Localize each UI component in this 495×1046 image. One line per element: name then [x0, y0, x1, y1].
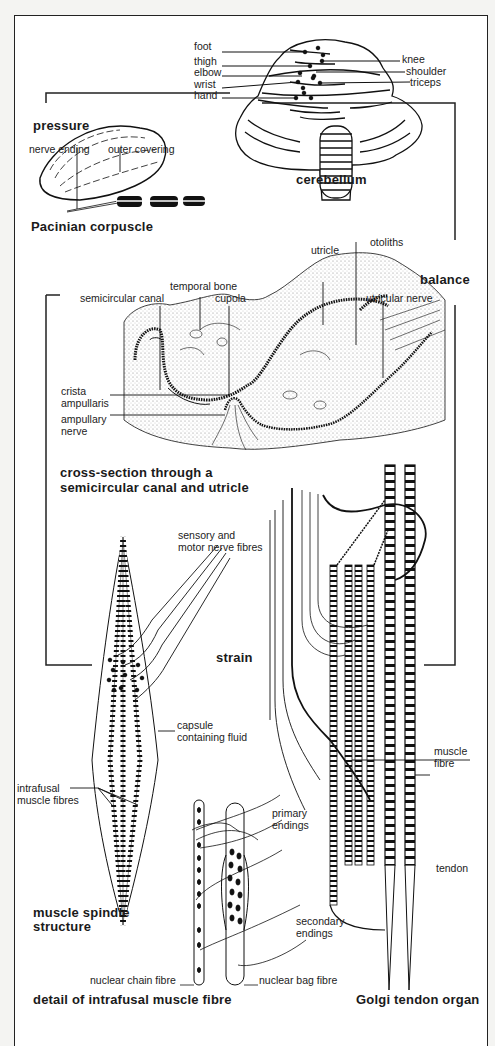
spindle-title-line2: structure — [33, 919, 91, 934]
label-secondary-endings-2: endings — [296, 927, 333, 939]
label-secondary-endings-1: secondary — [296, 915, 344, 927]
label-utricular-nerve: utricular nerve — [366, 292, 433, 304]
label-nuclear-chain-fibre: nuclear chain fibre — [90, 974, 176, 986]
label-tendon: tendon — [436, 862, 468, 874]
label-primary-endings-2: endings — [272, 819, 309, 831]
label-primary-endings-1: primary — [272, 807, 307, 819]
label-sensory-motor-1: sensory and — [178, 529, 235, 541]
pacinian-title: Pacinian corpuscle — [31, 219, 153, 234]
label-outer-covering: outer covering — [108, 143, 175, 155]
label-sensory-motor-2: motor nerve fibres — [178, 541, 263, 553]
label-nuclear-bag-fibre: nuclear bag fibre — [259, 974, 337, 986]
pacinian-nerve-fibre — [116, 196, 206, 207]
label-otoliths: otoliths — [370, 236, 403, 248]
label-triceps: triceps — [410, 76, 441, 88]
section-balance: balance — [420, 272, 470, 287]
label-temporal-bone: temporal bone — [170, 280, 237, 292]
section-strain: strain — [216, 650, 253, 665]
golgi-drawing — [270, 465, 470, 990]
label-ampullary-nerve-2: nerve — [61, 425, 87, 437]
label-capsule-2: containing fluid — [177, 731, 247, 743]
section-pressure: pressure — [33, 118, 90, 133]
canal-title-line2: semicircular canal and utricle — [60, 480, 249, 495]
intrafusal-title: detail of intrafusal muscle fibre — [33, 992, 232, 1007]
label-capsule-1: capsule — [177, 719, 213, 731]
label-crista-ampullaris-1: crista — [61, 385, 86, 397]
label-muscle-fibre-1: muscle — [434, 745, 467, 757]
label-muscle-fibre-2: fibre — [434, 757, 454, 769]
label-crista-ampullaris-2: ampullaris — [61, 397, 109, 409]
label-elbow: elbow — [194, 66, 221, 78]
label-semicircular-canal: semicircular canal — [80, 292, 164, 304]
label-ampullary-nerve-1: ampullary — [61, 413, 107, 425]
canal-title-line1: cross-section through a — [60, 465, 213, 480]
label-intrafusal-1: intrafusal — [17, 782, 60, 794]
label-hand: hand — [194, 89, 217, 101]
label-foot: foot — [194, 40, 212, 52]
cerebellum-title: cerebellum — [296, 172, 367, 187]
label-nerve-ending: nerve ending — [29, 143, 90, 155]
label-intrafusal-2: muscle fibres — [17, 794, 79, 806]
label-cupola: cupola — [215, 292, 246, 304]
pacinian-drawing — [40, 126, 166, 212]
cerebellum-leader-lines — [222, 46, 410, 100]
label-utricle: utricle — [311, 244, 339, 256]
label-knee: knee — [402, 53, 425, 65]
spindle-title-line1: muscle spindle — [33, 905, 130, 920]
golgi-title: Golgi tendon organ — [356, 992, 479, 1007]
